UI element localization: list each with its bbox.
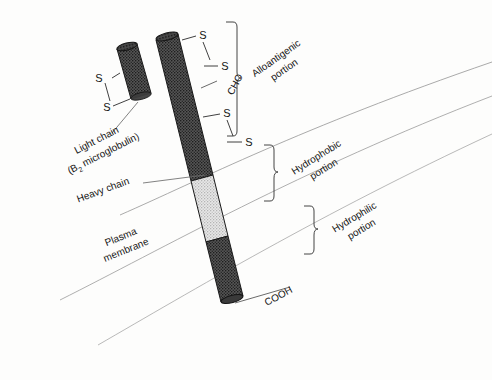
- cho-leader-line: [201, 81, 217, 88]
- bracket-hydrophobic-label: Hydrophobic portion: [289, 137, 350, 188]
- extracellular-segment: [156, 34, 213, 181]
- sulfur-label-heavy-lower-top: S: [223, 107, 230, 119]
- membrane-curve-middle: [60, 96, 492, 300]
- bracket-hydrophilic-label: Hydrophilic portion: [330, 200, 385, 247]
- sulfur-label-heavy-lower-bottom: S: [245, 136, 252, 148]
- sulfur-label-heavy-upper-bottom: S: [221, 60, 228, 72]
- sulfur-label-light-bottom: S: [103, 101, 110, 113]
- cho-label: CHO: [225, 72, 245, 97]
- light-chain-cylinder: [116, 40, 152, 101]
- heavy-chain-label: Heavy chain: [75, 175, 130, 204]
- bracket-hydrophilic: [304, 206, 318, 254]
- transmembrane-segment: [191, 175, 228, 242]
- sulfur-label-heavy-upper-top: S: [199, 29, 206, 41]
- light-chain-label: Light chain (B2 microglobulin): [59, 117, 142, 178]
- sulfur-label-light-top: S: [95, 72, 102, 84]
- cooh-label: COOH: [263, 284, 295, 308]
- cytoplasmic-segment: [206, 236, 243, 302]
- bracket-alloantigenic-label: Alloantigenic portion: [250, 37, 311, 90]
- heavy-chain-cylinder: [155, 30, 244, 305]
- mhc-class-i-diagram: S S S S S S CHO COOH: [0, 0, 492, 380]
